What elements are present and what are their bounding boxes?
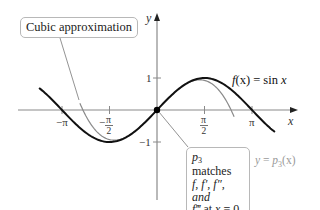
- y-tick-label-one: 1: [146, 72, 152, 84]
- x-tick-label-neg-half-pi-num: π: [106, 114, 111, 125]
- callout-cubic-approximation: Cubic approximation: [20, 17, 138, 38]
- x-tick-label-half-pi-num: π: [201, 114, 206, 125]
- x-tick-label-pi: π: [249, 116, 255, 128]
- callout-bottom-line2: f, f′, f″, and: [192, 178, 244, 203]
- x-tick-label-neg-half-pi-den: 2: [107, 126, 112, 136]
- x-axis-arrow-icon: [290, 107, 298, 113]
- callout-top-leader: [60, 38, 79, 100]
- y-axis-arrow-icon: [154, 13, 160, 21]
- callout-top-text: Cubic approximation: [26, 20, 132, 34]
- x-axis-label: x: [287, 114, 294, 128]
- x-tick-label-neg-half-pi-sign: −: [99, 116, 105, 128]
- callout-bottom-line3: f‴ at x = 0.: [192, 203, 244, 210]
- x-tick-label-neg-pi: −π: [56, 116, 68, 128]
- callout-bottom-line1: p3 matches: [192, 151, 244, 178]
- cubic-curve-label: y = p3(x): [254, 154, 296, 169]
- sine-curve-label: f(x) = sin x: [232, 73, 287, 87]
- y-axis-label: y: [145, 11, 152, 25]
- x-tick-label-half-pi-den: 2: [202, 126, 207, 136]
- y-tick-label-neg-one: −1: [139, 136, 151, 148]
- callout-p3-matches: p3 matches f, f′, f″, and f‴ at x = 0.: [186, 147, 250, 210]
- callout-bottom-leader: [159, 112, 188, 147]
